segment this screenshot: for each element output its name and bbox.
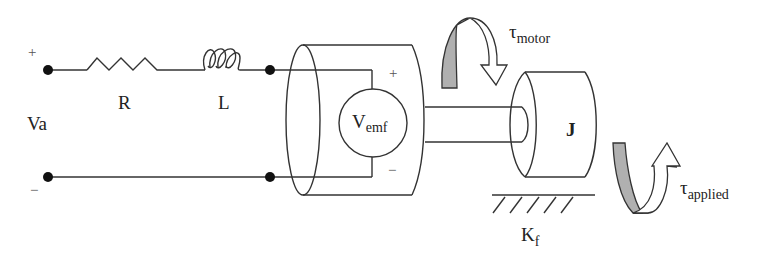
motor-torque-sub: motor — [517, 31, 550, 46]
terminal-dot — [265, 65, 275, 75]
resistor-icon — [87, 58, 165, 70]
applied-torque-label: τapplied — [680, 178, 729, 197]
emf-label-main: V — [352, 111, 366, 132]
resistor-label: R — [118, 93, 131, 112]
applied-torque-arrow-icon — [613, 143, 680, 213]
emf-label: Vemf — [352, 112, 388, 131]
motor-torque-main: τ — [509, 21, 517, 42]
friction-label-sub: f — [535, 234, 540, 249]
terminal-dot — [43, 172, 53, 182]
terminal-dot — [265, 172, 275, 182]
motor-torque-arrow-icon — [442, 18, 507, 88]
friction-ground-icon — [492, 195, 595, 213]
terminal-dot — [43, 65, 53, 75]
top-wire — [48, 49, 372, 89]
inductor-label: L — [218, 93, 230, 112]
applied-torque-sub: applied — [688, 187, 729, 202]
emf-minus-sign: − — [388, 163, 396, 178]
friction-label: Kf — [521, 225, 539, 244]
applied-torque-main: τ — [680, 177, 688, 198]
friction-label-main: K — [521, 224, 535, 245]
shaft — [425, 107, 528, 142]
emf-label-sub: emf — [366, 120, 388, 135]
source-minus-sign: − — [30, 183, 38, 198]
bottom-wire — [48, 157, 372, 177]
source-plus-sign: + — [28, 45, 36, 60]
inductor-icon — [204, 49, 240, 70]
emf-plus-sign: + — [389, 66, 397, 81]
inertia-cylinder — [510, 72, 596, 177]
terminals — [43, 65, 275, 182]
source-voltage-label: Va — [27, 114, 47, 133]
dc-motor-diagram: + − Va R L + − Vemf τmotor J Kf τapplied — [0, 0, 761, 254]
motor-torque-label: τmotor — [509, 22, 550, 41]
inertia-label: J — [566, 120, 576, 139]
